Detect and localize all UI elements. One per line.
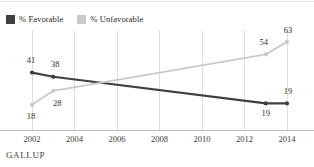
x-tick-label-2006: 2006 <box>109 133 126 145</box>
x-tick-label-2008: 2008 <box>151 133 168 145</box>
gridlines <box>32 30 287 131</box>
value-label-unfavorable-2014: 63 <box>284 26 293 35</box>
chart-legend: % Favorable % Unfavorable <box>6 15 143 24</box>
legend-swatch-unfavorable-icon <box>77 15 86 24</box>
legend-item-favorable: % Favorable <box>6 15 63 24</box>
value-label-unfavorable-2013: 54 <box>260 38 269 47</box>
footer-brand: GALLUP <box>6 150 45 160</box>
top-divider <box>0 1 314 2</box>
value-label-favorable-2003: 38 <box>51 60 60 69</box>
x-tick-label-2014: 2014 <box>279 133 296 145</box>
value-label-favorable-2014: 19 <box>284 87 293 96</box>
x-tick-label-2010: 2010 <box>194 133 211 145</box>
legend-label-favorable: % Favorable <box>19 15 63 24</box>
x-axis-line <box>0 130 314 131</box>
x-tick-label-2002: 2002 <box>24 133 41 145</box>
value-label-unfavorable-2002: 18 <box>27 112 36 121</box>
legend-label-unfavorable: % Unfavorable <box>90 15 143 24</box>
value-label-unfavorable-2003: 28 <box>53 99 62 108</box>
x-axis-tick-labels: 2002200420062008201020122014 <box>0 133 314 147</box>
x-tick-label-2012: 2012 <box>236 133 253 145</box>
chart-root: % Favorable % Unfavorable 20022004200620… <box>0 0 314 167</box>
value-label-favorable-2013: 19 <box>262 109 271 118</box>
legend-item-unfavorable: % Unfavorable <box>77 15 143 24</box>
value-label-favorable-2002: 41 <box>27 56 36 65</box>
x-tick-label-2004: 2004 <box>66 133 83 145</box>
legend-swatch-favorable-icon <box>6 15 15 24</box>
